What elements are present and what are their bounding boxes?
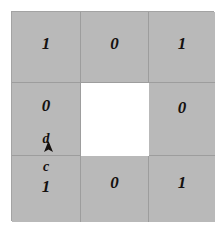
- grid-cell-center-hole: [81, 83, 149, 156]
- cell-value-bottom-right: 1: [178, 174, 187, 191]
- middle-left-stack: 0 d: [42, 97, 51, 146]
- grid-cell-bottom-middle: 0: [81, 156, 149, 222]
- grid-cell-top-right: 1: [149, 12, 215, 83]
- cell-value-bottom-left: 1: [42, 178, 51, 195]
- grid-cell-bottom-left: c 1: [12, 156, 81, 222]
- label-c: c: [43, 160, 49, 174]
- grid-cell-middle-right: 0: [149, 83, 215, 156]
- bottom-left-stack: c 1: [42, 160, 51, 195]
- grid-cell-bottom-right: 1: [149, 156, 215, 222]
- cell-value-middle-left: 0: [42, 97, 51, 114]
- up-arrow-icon: [43, 141, 54, 154]
- cell-value-bottom-middle: 0: [110, 174, 119, 191]
- cell-value-middle-right: 0: [178, 99, 187, 116]
- grid-cell-top-left: 1: [12, 12, 81, 83]
- cell-value-top-right: 1: [178, 35, 187, 52]
- figure-canvas: 1 0 1 0 d 0 c 1 0: [0, 0, 224, 231]
- cell-grid: 1 0 1 0 d 0 c 1 0: [11, 11, 214, 221]
- grid-cell-top-middle: 0: [81, 12, 149, 83]
- cell-value-top-left: 1: [42, 35, 51, 52]
- cell-value-top-middle: 0: [110, 35, 119, 52]
